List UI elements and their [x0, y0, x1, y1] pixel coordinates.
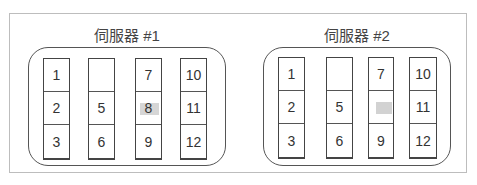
slot-label: 12	[415, 133, 431, 149]
slot-highlighted	[369, 91, 393, 124]
slot-label: 5	[98, 100, 106, 116]
slot: 2	[279, 91, 304, 124]
slot-label: 7	[145, 67, 153, 83]
slot-label: 8	[145, 100, 153, 116]
slot-column-4: 10 11 12	[180, 58, 207, 160]
slot-label: 1	[53, 67, 61, 83]
slot: 9	[136, 125, 161, 158]
slot-label: 3	[288, 133, 296, 149]
server-2: 伺服器 #2 1 2 3 5 6 7 9 10 11 12	[263, 24, 451, 166]
slot-column-4: 10 11 12	[409, 57, 437, 159]
server-1: 伺服器 #1 1 2 3 5 6 7 8 9 10 11 12	[28, 24, 226, 166]
slot: 10	[181, 59, 206, 92]
slot-label: 1	[288, 66, 296, 82]
slot: 1	[44, 59, 69, 92]
slot: 6	[327, 124, 352, 157]
slot: 7	[369, 58, 393, 91]
server-title: 伺服器 #2	[263, 24, 451, 45]
slot: 11	[410, 91, 436, 124]
slot: 10	[410, 58, 436, 91]
slot-label: 9	[377, 133, 385, 149]
slot	[327, 58, 352, 91]
slot-label: 3	[53, 134, 61, 150]
slot-label: 6	[336, 133, 344, 149]
slot-label: 2	[288, 99, 296, 115]
slot-label: 2	[53, 100, 61, 116]
slot: 5	[327, 91, 352, 124]
slot-column-2: 5 6	[326, 57, 353, 159]
slot: 3	[279, 124, 304, 157]
slot-label: 10	[186, 67, 202, 83]
slot-column-1: 1 2 3	[278, 57, 305, 159]
slot-highlight	[376, 102, 392, 114]
slot-column-1: 1 2 3	[43, 58, 70, 160]
slot	[89, 59, 114, 92]
slot-label: 6	[98, 134, 106, 150]
slot-highlighted: 8	[136, 92, 161, 125]
slot: 9	[369, 124, 393, 157]
slot: 12	[410, 124, 436, 157]
slot-label: 12	[186, 134, 202, 150]
slot-label: 7	[377, 66, 385, 82]
slot-label: 10	[415, 66, 431, 82]
slot: 3	[44, 125, 69, 158]
slot-column-3: 7 9	[368, 57, 394, 159]
slot: 11	[181, 92, 206, 125]
slot-label: 5	[336, 99, 344, 115]
slot-column-3: 7 8 9	[135, 58, 162, 160]
slot-label: 11	[186, 100, 201, 116]
slot-column-2: 5 6	[88, 58, 115, 160]
slot: 5	[89, 92, 114, 125]
slot: 1	[279, 58, 304, 91]
slot: 2	[44, 92, 69, 125]
server-title: 伺服器 #1	[28, 24, 226, 45]
slot-label: 9	[145, 134, 153, 150]
slot: 6	[89, 125, 114, 158]
slot: 7	[136, 59, 161, 92]
slot-label: 11	[416, 99, 431, 115]
slot: 12	[181, 125, 206, 158]
